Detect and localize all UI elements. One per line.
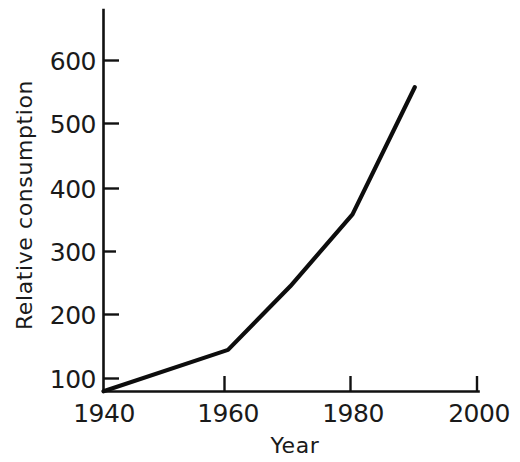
x-axis-title: Year bbox=[270, 433, 320, 458]
y-tick-label-600: 600 bbox=[50, 47, 96, 76]
y-axis-ticks bbox=[104, 61, 120, 379]
x-tick-label-1960: 1960 bbox=[197, 399, 259, 428]
x-axis-ticks bbox=[225, 376, 478, 392]
y-tick-label-300: 300 bbox=[50, 238, 96, 267]
chart-figure: 600 500 400 300 200 100 1940 1960 1980 2… bbox=[0, 0, 520, 462]
y-tick-label-500: 500 bbox=[50, 110, 96, 139]
x-tick-label-1980: 1980 bbox=[322, 399, 384, 428]
y-tick-label-100: 100 bbox=[50, 365, 96, 394]
y-tick-label-400: 400 bbox=[50, 175, 96, 204]
y-axis-title: Relative consumption bbox=[12, 80, 37, 330]
x-tick-label-2000: 2000 bbox=[448, 399, 510, 428]
x-axis-tick-labels: 1940 1960 1980 2000 bbox=[73, 399, 510, 428]
line-chart-canvas: 600 500 400 300 200 100 1940 1960 1980 2… bbox=[0, 0, 520, 462]
y-axis-tick-labels: 600 500 400 300 200 100 bbox=[50, 47, 96, 394]
data-series-line bbox=[104, 87, 415, 391]
y-tick-label-200: 200 bbox=[50, 301, 96, 330]
x-tick-label-1940: 1940 bbox=[73, 399, 135, 428]
